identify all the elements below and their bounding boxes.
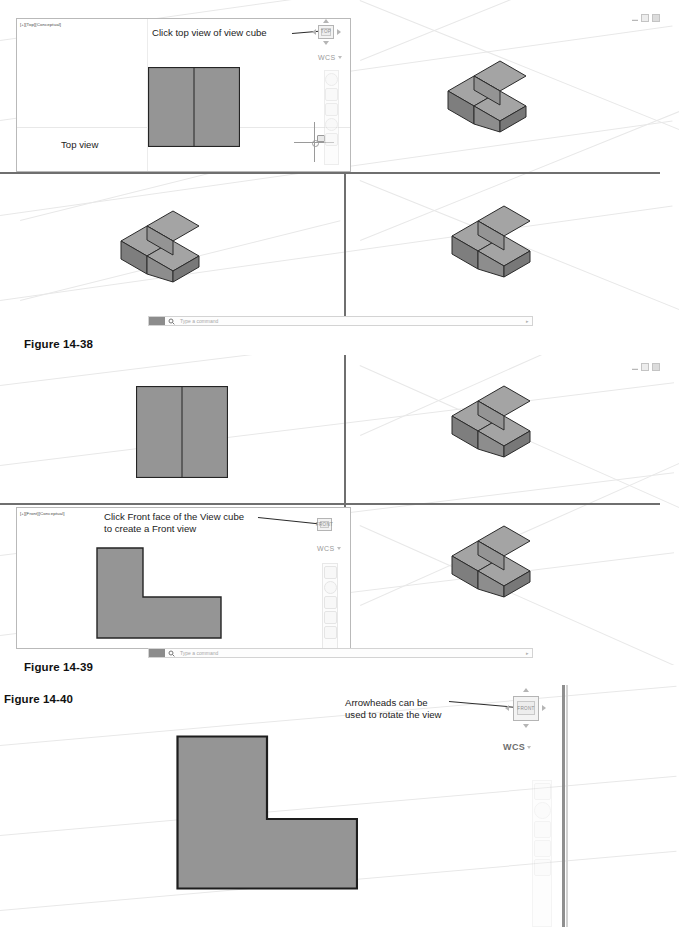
restore-icon[interactable] (641, 363, 649, 371)
viewport-label-front[interactable]: [+][Front][Conceptual] (20, 511, 65, 516)
arrow-right-icon[interactable] (542, 705, 546, 711)
window-controls-2[interactable] (632, 363, 660, 371)
command-line-2[interactable]: Type a command ▸ (148, 648, 533, 658)
view-cube-3[interactable]: FRONT (513, 696, 539, 721)
view-cube-label[interactable]: FRONT (320, 521, 329, 528)
viewport-label-top[interactable]: [+][Top][Conceptual] (20, 22, 61, 27)
command-badge (149, 649, 165, 657)
callout-click-top-view: Click top view of view cube (152, 27, 267, 39)
view-cube[interactable]: TOP (318, 25, 334, 39)
zoom-icon[interactable] (324, 611, 337, 624)
isometric-block-top-right (444, 60, 537, 133)
wcs-dropdown-3[interactable]: WCS (503, 742, 531, 752)
view-cube-face[interactable]: FRONT (513, 696, 539, 721)
view-cube-label[interactable]: TOP (321, 28, 331, 36)
navigation-bar[interactable] (324, 70, 339, 165)
viewport-separator-horizontal-2[interactable] (0, 503, 660, 505)
command-input[interactable]: Type a command (177, 318, 522, 324)
orbit-icon[interactable] (324, 581, 337, 594)
showmotion-icon[interactable] (534, 859, 551, 876)
callout-arrowheads-rotate: Arrowheads can be used to rotate the vie… (345, 697, 442, 721)
view-cube-face[interactable]: FRONT (317, 518, 332, 531)
figure-14-40: Figure 14-40 Arrowheads can be used to r… (0, 685, 679, 927)
figure-caption-14-38: Figure 14-38 (24, 338, 93, 350)
pan-icon[interactable] (325, 88, 338, 101)
showmotion-icon[interactable] (325, 133, 338, 146)
command-expand-icon[interactable]: ▸ (522, 650, 532, 656)
zoom-icon[interactable] (325, 103, 338, 116)
figure-caption-14-39: Figure 14-39 (24, 661, 93, 673)
close-icon[interactable] (652, 14, 660, 22)
top-view-text: Top view (61, 139, 98, 150)
command-input[interactable]: Type a command (177, 650, 522, 656)
minimize-icon[interactable] (632, 19, 638, 21)
navigation-bar-2[interactable] (322, 563, 338, 649)
steering-wheel-icon[interactable] (324, 566, 337, 579)
wcs-label: WCS (317, 545, 335, 552)
viewport-top-left[interactable]: [+][Top][Conceptual] Top view (16, 18, 351, 172)
arrow-up-icon[interactable] (523, 688, 529, 692)
close-icon[interactable] (652, 363, 660, 371)
viewport-right-edge-light (566, 685, 568, 927)
chevron-down-icon[interactable] (338, 56, 342, 59)
pan-icon[interactable] (324, 596, 337, 609)
pan-icon[interactable] (534, 821, 551, 838)
restore-icon[interactable] (641, 14, 649, 22)
isometric-block-lower-right-2 (448, 525, 541, 598)
wcs-dropdown-2[interactable]: WCS (317, 545, 341, 552)
magnifier-icon[interactable] (165, 650, 177, 657)
arrow-down-icon[interactable] (323, 41, 329, 45)
figure-14-38: [+][Top][Conceptual] Top view Click top … (0, 0, 679, 350)
arrow-up-icon[interactable] (323, 19, 329, 23)
zoom-icon[interactable] (534, 840, 551, 857)
viewport-separator-vertical[interactable] (344, 174, 346, 316)
arrow-left-icon[interactable] (312, 29, 316, 35)
steering-wheel-icon[interactable] (534, 783, 551, 800)
command-badge (149, 317, 165, 325)
viewport-right-edge[interactable] (562, 685, 565, 927)
isometric-block-upper-right-2 (448, 385, 541, 458)
magnifier-icon[interactable] (165, 318, 177, 325)
arrow-down-icon[interactable] (523, 724, 529, 728)
chevron-down-icon[interactable] (527, 746, 531, 749)
minimize-icon[interactable] (632, 368, 638, 370)
view-cube-label[interactable]: FRONT (517, 701, 534, 716)
arrow-right-icon[interactable] (337, 29, 341, 35)
wcs-label: WCS (318, 54, 336, 61)
command-expand-icon[interactable]: ▸ (522, 318, 532, 324)
orbit-icon[interactable] (534, 802, 551, 819)
isometric-block-bottom-left (117, 210, 210, 283)
showmotion-icon[interactable] (324, 626, 337, 639)
command-line[interactable]: Type a command ▸ (148, 316, 533, 326)
orbit-icon[interactable] (325, 118, 338, 131)
view-cube-face[interactable]: TOP (318, 25, 334, 39)
figure-14-39: [+][Front][Conceptual] Click Front face … (0, 355, 679, 675)
steering-wheel-icon[interactable] (325, 73, 338, 86)
window-controls[interactable] (632, 14, 660, 22)
callout-click-front-face: Click Front face of the View cube to cre… (104, 511, 244, 535)
arrow-left-icon[interactable] (505, 705, 509, 711)
navigation-bar-3[interactable] (532, 780, 552, 927)
top-view-rectangle (148, 67, 240, 147)
viewport-separator-horizontal[interactable] (0, 172, 660, 174)
front-view-L-shape-large (176, 735, 358, 890)
top-view-rectangle-2 (136, 386, 228, 478)
front-view-L-shape (96, 547, 222, 639)
isometric-block-bottom-right (448, 205, 541, 278)
wcs-dropdown[interactable]: WCS (318, 54, 342, 61)
wcs-label: WCS (503, 742, 525, 752)
view-cube-2[interactable]: FRONT (317, 518, 332, 531)
chevron-down-icon[interactable] (337, 547, 341, 550)
